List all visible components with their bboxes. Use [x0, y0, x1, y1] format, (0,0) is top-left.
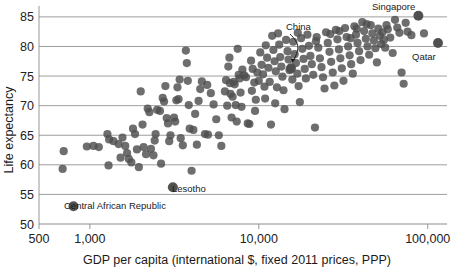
- data-point: [203, 81, 211, 89]
- data-point: [344, 42, 352, 50]
- annotation-label: Lesotho: [172, 183, 206, 194]
- data-point: [212, 115, 220, 123]
- data-point: [363, 20, 371, 28]
- data-point: [262, 41, 270, 49]
- data-point: [236, 89, 244, 97]
- data-point: [360, 27, 368, 35]
- annotation-label: Qatar: [412, 51, 436, 62]
- data-point: [204, 131, 212, 139]
- y-tick-label: 70: [20, 99, 34, 113]
- annotation-label: Singapore: [372, 1, 415, 12]
- data-point: [382, 21, 390, 29]
- data-point: [276, 53, 284, 61]
- highlighted-data-point: [286, 63, 296, 73]
- data-point: [185, 101, 193, 109]
- data-point: [118, 134, 126, 142]
- data-point: [311, 123, 319, 131]
- data-point: [353, 25, 361, 33]
- data-point: [327, 58, 335, 66]
- x-axis-title: GDP per capita (international $, fixed 2…: [83, 253, 391, 267]
- data-point: [174, 95, 182, 103]
- data-point: [395, 29, 403, 37]
- annotation-label: China: [286, 21, 312, 32]
- data-point: [349, 70, 357, 78]
- y-tick-label: 55: [20, 188, 34, 202]
- data-point: [223, 102, 231, 110]
- data-points-group: [59, 12, 443, 211]
- data-point: [123, 149, 131, 157]
- data-point: [282, 36, 290, 44]
- x-tick-label: 100,000: [405, 232, 450, 246]
- data-point: [347, 34, 355, 42]
- data-point: [356, 56, 364, 64]
- data-point: [271, 99, 279, 107]
- data-point: [309, 71, 317, 79]
- data-point: [177, 134, 185, 142]
- data-point: [306, 52, 314, 60]
- data-point: [248, 87, 256, 95]
- data-point: [275, 41, 283, 49]
- data-point: [320, 84, 328, 92]
- data-point: [160, 97, 168, 105]
- data-point: [217, 142, 225, 150]
- data-point: [176, 76, 184, 84]
- data-point: [261, 94, 269, 102]
- data-point: [215, 131, 223, 139]
- data-point: [330, 81, 338, 89]
- x-tick-label: 1,000: [74, 232, 105, 246]
- data-point: [386, 33, 394, 41]
- data-point: [166, 131, 174, 139]
- data-point: [355, 47, 363, 55]
- data-point: [127, 158, 135, 166]
- data-point: [324, 39, 332, 47]
- data-point: [263, 54, 271, 62]
- data-point: [302, 74, 310, 82]
- y-tick-label: 60: [20, 158, 34, 172]
- data-point: [179, 141, 187, 149]
- data-point: [301, 65, 309, 73]
- data-point: [296, 98, 304, 106]
- data-point: [336, 54, 344, 62]
- data-point: [194, 97, 202, 105]
- data-point: [278, 73, 286, 81]
- data-point: [280, 105, 288, 113]
- data-point: [191, 110, 199, 118]
- y-tick-labels-group: 5055606570758085: [20, 10, 34, 231]
- data-point: [104, 161, 112, 169]
- data-point: [156, 107, 164, 115]
- data-point: [295, 82, 303, 90]
- data-point: [138, 120, 146, 128]
- y-tick-label: 75: [20, 70, 34, 84]
- y-tick-label: 50: [20, 218, 34, 232]
- data-point: [59, 165, 67, 173]
- data-point: [242, 73, 250, 81]
- data-point: [267, 120, 275, 128]
- y-tick-label: 85: [20, 10, 34, 24]
- annotation-label: Central African Republic: [64, 200, 166, 211]
- data-point: [229, 93, 237, 101]
- data-point: [237, 103, 245, 111]
- data-point: [157, 160, 165, 168]
- data-point: [137, 87, 145, 95]
- data-point: [187, 167, 195, 175]
- data-point: [319, 73, 327, 81]
- data-point: [283, 47, 291, 55]
- data-point: [365, 51, 373, 59]
- data-point: [189, 126, 197, 134]
- data-point: [139, 143, 147, 151]
- data-point: [171, 118, 179, 126]
- data-point: [184, 77, 192, 85]
- data-point: [131, 130, 139, 138]
- data-point: [164, 119, 172, 127]
- data-point: [183, 59, 191, 67]
- data-point: [420, 29, 428, 37]
- data-point: [149, 151, 157, 159]
- data-point: [373, 58, 381, 66]
- data-point: [353, 39, 361, 47]
- data-point: [274, 29, 282, 37]
- data-point: [346, 51, 354, 59]
- data-point: [326, 30, 334, 38]
- highlighted-data-point: [433, 38, 443, 48]
- data-point: [225, 54, 233, 62]
- data-point: [335, 45, 343, 53]
